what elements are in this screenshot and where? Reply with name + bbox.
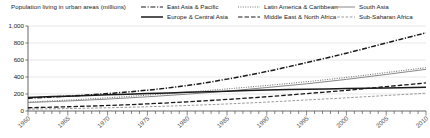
y-axis-tick-label: 200 bbox=[14, 90, 25, 97]
y-axis-tick-label: 800 bbox=[14, 39, 25, 46]
urban-population-line-chart: Population living in urban areas (millio… bbox=[0, 0, 430, 138]
x-axis-tick-label: 2005 bbox=[374, 114, 389, 129]
legend-item-label: South Asia bbox=[359, 3, 389, 11]
y-axis-tick-label: 400 bbox=[14, 73, 25, 80]
legend-item[interactable]: Latin America & Caribbean bbox=[238, 2, 338, 12]
x-axis-tick-label: 2010 bbox=[414, 114, 429, 129]
y-axis-tick-label: 600 bbox=[14, 56, 25, 63]
legend-line-sample-east-asia-pacific bbox=[141, 3, 163, 11]
plot-svg: 02004006008001,0001960196519701975198019… bbox=[0, 18, 430, 138]
x-axis-tick-label: 2000 bbox=[335, 114, 350, 129]
legend-item-label: East Asia & Pacific bbox=[167, 3, 219, 11]
legend-line-sample-south-asia bbox=[333, 3, 355, 11]
legend-line-sample-latin-america-caribbean bbox=[238, 3, 260, 11]
x-axis-tick-label: 1965 bbox=[56, 114, 71, 129]
x-axis-tick-label: 1970 bbox=[96, 114, 111, 129]
chart-title: Population living in urban areas (millio… bbox=[11, 3, 126, 10]
x-axis-tick-label: 1975 bbox=[136, 114, 151, 129]
x-axis-tick-label: 1990 bbox=[255, 114, 270, 129]
y-axis-tick-label: 0 bbox=[21, 107, 25, 114]
legend-item[interactable]: East Asia & Pacific bbox=[141, 2, 228, 12]
legend-item[interactable]: South Asia bbox=[333, 2, 413, 12]
x-axis-tick-label: 1960 bbox=[16, 114, 31, 129]
x-axis-tick-label: 1985 bbox=[215, 114, 230, 129]
x-axis-tick-label: 1980 bbox=[175, 114, 190, 129]
y-axis-tick-label: 1,000 bbox=[9, 22, 25, 29]
x-axis-tick-label: 1995 bbox=[295, 114, 310, 129]
series-line-south-asia bbox=[28, 69, 426, 102]
plot-area: 02004006008001,0001960196519701975198019… bbox=[0, 18, 430, 138]
legend-item-label: Latin America & Caribbean bbox=[264, 3, 338, 11]
